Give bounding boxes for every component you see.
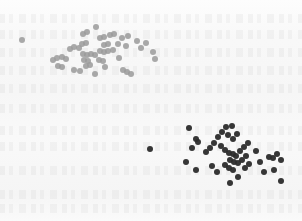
scatter-point [257,159,263,165]
scatter-point [211,140,217,146]
scatter-point [143,40,149,46]
scatter-point [246,161,252,167]
scatter-point [92,71,98,77]
scatter-point [230,136,236,142]
scatter-point [150,49,156,55]
scatter-point [229,123,235,129]
scatter-point [261,169,267,175]
scatter-point [83,40,89,46]
scatter-point [215,134,221,140]
scatter-point [111,31,117,37]
scatter-point [125,33,131,39]
scatter-point [59,64,65,70]
scatter-point [234,131,240,137]
scatter-point [193,167,199,173]
scatter-point [93,24,99,30]
scatter-point [183,159,189,165]
scatter-point [186,125,192,131]
scatter-point [110,47,116,53]
scatter-point [278,178,284,184]
plot-area [0,0,302,221]
scatter-point [134,38,140,44]
scatter-point [84,29,90,35]
scatter-point [123,43,129,49]
scatter-point [271,167,277,173]
scatter-point [63,56,69,62]
scatter-plot-figure [0,0,302,221]
scatter-point [152,56,158,62]
scatter-point [189,145,195,151]
scatter-point [209,163,215,169]
scatter-point [227,180,233,186]
scatter-point [128,71,134,77]
scatter-point [278,157,284,163]
scatter-point [274,151,280,157]
scatter-point [214,169,220,175]
scatter-point [243,153,249,159]
scatter-point [230,167,236,173]
scatter-point [235,174,241,180]
scatter-point [138,45,144,51]
scatter-point [102,64,108,70]
scatter-point [245,140,251,146]
scatter-point [195,139,201,145]
scatter-point [116,55,122,61]
scatter-point [147,146,153,152]
scatter-point [87,62,93,68]
scatter-point [115,41,121,47]
scatter-point [253,148,259,154]
scatter-point [207,145,213,151]
scatter-point [77,68,83,74]
scatter-point [105,41,111,47]
scatter-point [19,37,25,43]
